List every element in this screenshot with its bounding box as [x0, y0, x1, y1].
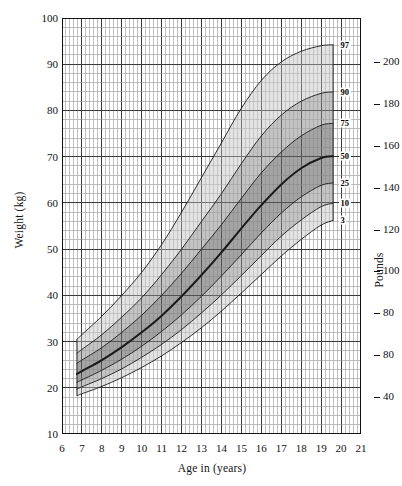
percentile-label-25: 25: [339, 179, 351, 188]
pounds-tick-label: 120: [374, 223, 400, 235]
x-tick-label: 9: [119, 442, 125, 454]
x-tick-label: 11: [156, 442, 167, 454]
percentile-label-97: 97: [339, 40, 351, 49]
pounds-tick-label: 40: [374, 390, 394, 402]
y-tick-label: 80: [24, 104, 58, 116]
pounds-tick-label: 160: [374, 139, 400, 151]
y-tick-label: 30: [24, 336, 58, 348]
percentile-bands: [77, 45, 333, 396]
y-tick-label: 40: [24, 289, 58, 301]
x-axis-ticks: 6789101112131415161718192021: [0, 440, 402, 460]
y-axis-ticks: 102030405060708090100: [20, 0, 58, 486]
percentile-label-10: 10: [339, 199, 351, 208]
percentile-label-3: 3: [339, 216, 346, 225]
x-tick-label: 8: [99, 442, 105, 454]
percentile-curves: [62, 18, 361, 434]
pounds-tick-label: 80: [374, 348, 394, 360]
y-tick-label: 70: [24, 151, 58, 163]
x-tick-label: 16: [256, 442, 267, 454]
x-tick-label: 14: [216, 442, 227, 454]
plot-area: [62, 18, 361, 434]
x-tick-label: 21: [356, 442, 367, 454]
pounds-tick-label: 140: [374, 181, 400, 193]
x-tick-label: 17: [276, 442, 287, 454]
y-tick-label: 100: [24, 12, 58, 24]
x-tick-label: 18: [296, 442, 307, 454]
x-tick-label: 13: [196, 442, 207, 454]
x-axis-title: Age in (years): [62, 462, 362, 474]
pounds-tick-label: 200: [374, 55, 400, 67]
y-tick-label: 50: [24, 243, 58, 255]
pounds-axis-ticks: 408080100120140160180200: [366, 0, 402, 486]
y-tick-label: 60: [24, 197, 58, 209]
percentile-label-50: 50: [339, 152, 351, 161]
pounds-tick-label: 80: [374, 306, 394, 318]
x-tick-label: 10: [136, 442, 147, 454]
pounds-tick-label: 180: [374, 97, 400, 109]
percentile-label-75: 75: [339, 119, 351, 128]
y-tick-label: 20: [24, 382, 58, 394]
growth-chart: Weight (kg) Pounds Age in (years) 102030…: [0, 0, 402, 486]
x-tick-label: 20: [336, 442, 347, 454]
y-tick-label: 90: [24, 58, 58, 70]
x-tick-label: 19: [316, 442, 327, 454]
percentile-label-90: 90: [339, 87, 351, 96]
y-tick-label: 10: [24, 428, 58, 440]
x-tick-label: 15: [236, 442, 247, 454]
pounds-tick-label: 100: [374, 264, 400, 276]
x-tick-label: 12: [176, 442, 187, 454]
x-tick-label: 6: [59, 442, 65, 454]
x-tick-label: 7: [79, 442, 85, 454]
